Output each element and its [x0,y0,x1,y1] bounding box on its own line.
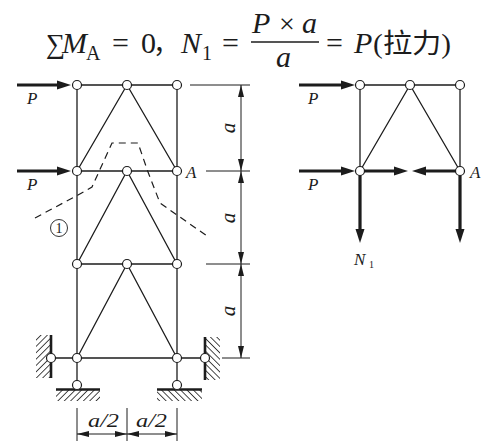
arrow-right-icon [341,81,355,90]
hinge-node [456,81,465,90]
arrow-down-icon [356,229,365,243]
arrow-down-icon [456,229,465,243]
arrow-down-icon [238,159,244,171]
section-cut-label: 1 [51,220,68,237]
arrow-up-icon [238,171,244,183]
diagonal-members-panel-2 [77,171,177,264]
dimension-label: a [216,306,240,317]
arrow-right-icon [115,431,127,437]
left-ground-support [56,390,100,402]
full-truss-diagram: 1 P P [17,81,250,442]
denominator-a: a [276,40,291,73]
tension-note: (拉力) [373,29,451,59]
load-arrow-middle: P [299,167,355,195]
diagonal-members-panel-1 [77,85,177,171]
hinge-node [73,81,82,90]
equals-sign-1: = [112,26,129,59]
free-body-diagram: P P A N 1 [299,81,481,271]
truss-section-diagram: ∑ M A = 0 ， N 1 = P × a a = P (拉力) [0,0,484,447]
arrow-down-icon [238,346,244,358]
arrow-right-icon [57,167,71,176]
arrow-right-icon [341,167,355,176]
hinge-node [406,81,415,90]
hinge-node-a [173,167,182,176]
ground-hinge-node [73,381,82,390]
hinge-node [356,81,365,90]
load-arrow-top: P [299,81,355,109]
horizontal-dimensions: a/2 a/2 [77,408,177,441]
arrow-up-icon [238,264,244,276]
numerator-a: a [302,6,317,39]
arrow-right-icon [165,431,177,437]
load-arrow-top: P [17,81,71,109]
arrow-down-icon [238,252,244,264]
wall-hinge-node [47,354,56,363]
hinge-node [123,81,132,90]
load-label: P [26,89,37,108]
diagram-svg: ∑ M A = 0 ， N 1 = P × a a = P (拉力) [0,0,484,447]
load-label: P [307,175,318,194]
moment-subscript: A [86,42,101,64]
equals-sign-3: = [326,26,343,59]
arrow-right-icon [394,167,408,176]
moment-symbol: M [61,26,89,59]
force-symbol: N [180,26,203,59]
times-sign: × [279,8,295,39]
free-body-nodes [356,81,465,176]
dimension-label: a/2 [136,410,168,431]
hinge-node [73,167,82,176]
separator-comma: ， [153,30,179,59]
hinge-node [123,167,132,176]
load-arrow-middle: P [17,167,71,195]
load-label: P [307,89,318,108]
ground-hatching [157,390,202,401]
result-p: P [353,26,372,59]
load-label: P [26,175,37,194]
force-subscript: 1 [202,42,212,64]
arrow-left-icon [77,431,89,437]
equilibrium-formula: ∑ M A = 0 ， N 1 = P × a a = P (拉力) [46,6,451,73]
hinge-node-a [456,167,465,176]
member-force-label: N [353,250,367,269]
free-body-members [360,85,460,171]
hinge-node [73,354,82,363]
node-label-a: A [469,163,481,182]
arrow-right-icon [57,81,71,90]
hinge-node [173,260,182,269]
ground-hinge-node [173,381,182,390]
arrow-up-icon [238,85,244,97]
ground-hatching [56,390,100,401]
arrow-left-icon [412,167,426,176]
member-force-subscript: 1 [369,259,374,270]
node-label-a: A [185,163,197,182]
wall-hinge-node [201,354,210,363]
cut-number: 1 [56,221,63,236]
dimension-label: a/2 [88,410,120,431]
arrow-left-icon [127,431,139,437]
hinge-node [173,81,182,90]
hinge-nodes [47,81,210,390]
cut-member-forces [356,167,465,244]
truss-members [51,85,205,385]
numerator-p: P [251,6,270,39]
equals-sign-2: = [222,26,239,59]
diagonal-members-panel-3 [77,264,177,358]
diagonal-members [360,85,460,171]
right-ground-support [157,390,202,402]
dimension-label: a [216,123,240,134]
dimension-label: a [216,213,240,224]
hinge-node [73,260,82,269]
hinge-node [173,354,182,363]
vertical-dimensions: a a a [190,85,250,358]
hinge-node [356,167,365,176]
hinge-node [123,260,132,269]
